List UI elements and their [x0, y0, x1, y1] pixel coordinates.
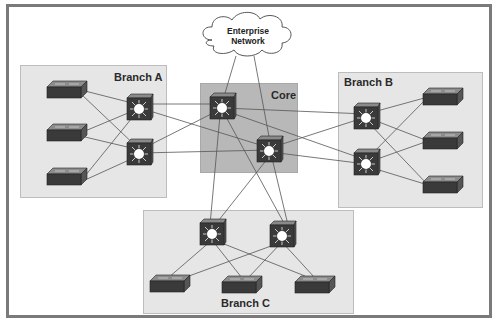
- network-diagram: [0, 0, 499, 331]
- branch-b-multilayer-switch-1: [354, 103, 380, 129]
- cloud-label: Enterprise Network: [208, 26, 288, 46]
- core-multilayer-switch-1: [210, 93, 236, 119]
- branch-b-access-switch-3: [423, 176, 463, 193]
- branch-a-multilayer-switch-1: [127, 94, 153, 120]
- branch-a-access-switch-2: [47, 124, 87, 141]
- branch-b-multilayer-switch-2: [354, 149, 380, 175]
- branch-a-access-switch-3: [47, 168, 87, 185]
- branch-b-access-switch-2: [423, 132, 463, 149]
- branch-c-access-switch-3: [295, 276, 335, 293]
- branch-c-access-switch-1: [150, 275, 190, 292]
- branch-c-multilayer-switch-2: [270, 221, 296, 247]
- cloud-label-line1: Enterprise: [208, 26, 288, 36]
- branch-a-multilayer-switch-2: [127, 139, 153, 165]
- branch-b-access-switch-1: [423, 88, 463, 105]
- cloud-label-line2: Network: [208, 36, 288, 46]
- branch-c-access-switch-2: [222, 276, 262, 293]
- branch-c-multilayer-switch-1: [200, 219, 226, 245]
- branch-a-access-switch-1: [47, 81, 87, 98]
- core-multilayer-switch-2: [257, 136, 283, 162]
